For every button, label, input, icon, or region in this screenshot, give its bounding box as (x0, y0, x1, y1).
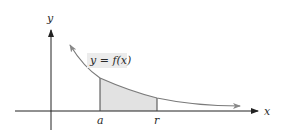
interval-start-label: a (97, 114, 104, 127)
interval-end-label: r (154, 114, 160, 127)
area-diagram: y = f(x) y x a r (0, 0, 286, 136)
y-axis-label: y (46, 12, 54, 25)
shaded-area (100, 78, 157, 111)
x-axis-label: x (264, 105, 271, 118)
curve-label: y = f(x) (89, 54, 131, 67)
